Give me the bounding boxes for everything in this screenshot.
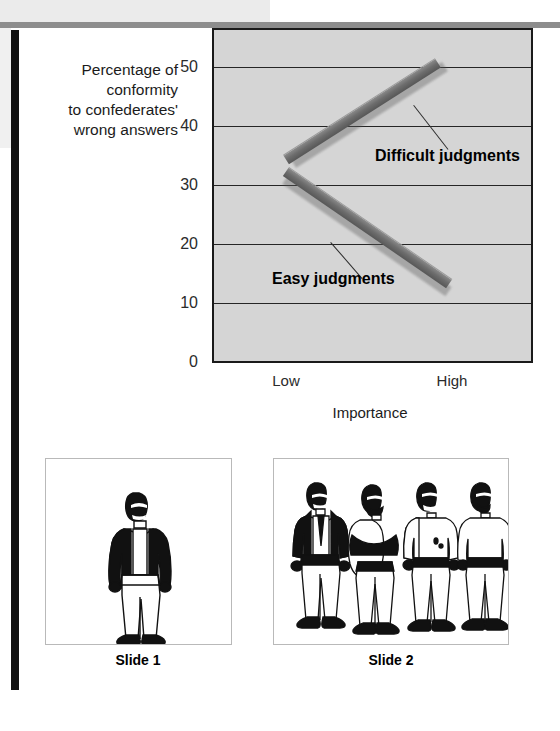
x-tick-label-high: High xyxy=(437,372,468,389)
leader-line-difficult xyxy=(413,105,448,150)
y-tick-label-40: 40 xyxy=(158,118,198,134)
y-tick-label-0: 0 xyxy=(158,354,198,370)
series-label-easy-judgments: Easy judgments xyxy=(272,270,395,288)
conformity-line-chart: Percentage of conformity to confederates… xyxy=(0,0,560,430)
y-axis-title-line-1: Percentage of xyxy=(18,60,178,80)
plot-area: Difficult judgments Easy judgments xyxy=(212,28,533,363)
slide-1-image xyxy=(45,458,232,645)
slide-2-image xyxy=(273,458,509,645)
gridline-40 xyxy=(214,126,531,127)
four-people-icon xyxy=(274,459,509,645)
slide-2-caption: Slide 2 xyxy=(368,652,413,668)
y-axis-title: Percentage of conformity to confederates… xyxy=(18,60,178,140)
y-axis-title-line-2: conformity xyxy=(18,80,178,100)
x-axis-title: Importance xyxy=(332,404,407,421)
x-tick-label-low: Low xyxy=(272,372,300,389)
gridline-30 xyxy=(214,185,531,186)
series-label-difficult-judgments: Difficult judgments xyxy=(375,147,520,165)
y-tick-label-30: 30 xyxy=(158,177,198,193)
single-person-icon xyxy=(46,459,232,645)
y-axis-title-line-3: to confederates' xyxy=(18,100,178,120)
y-tick-label-50: 50 xyxy=(158,59,198,75)
y-axis-title-line-4: wrong answers xyxy=(18,120,178,140)
figure-root: Percentage of conformity to confederates… xyxy=(0,0,560,731)
y-tick-label-10: 10 xyxy=(158,295,198,311)
gridline-10 xyxy=(214,303,531,304)
slide-1-caption: Slide 1 xyxy=(115,652,160,668)
y-tick-label-20: 20 xyxy=(158,236,198,252)
gridline-50 xyxy=(214,67,531,68)
